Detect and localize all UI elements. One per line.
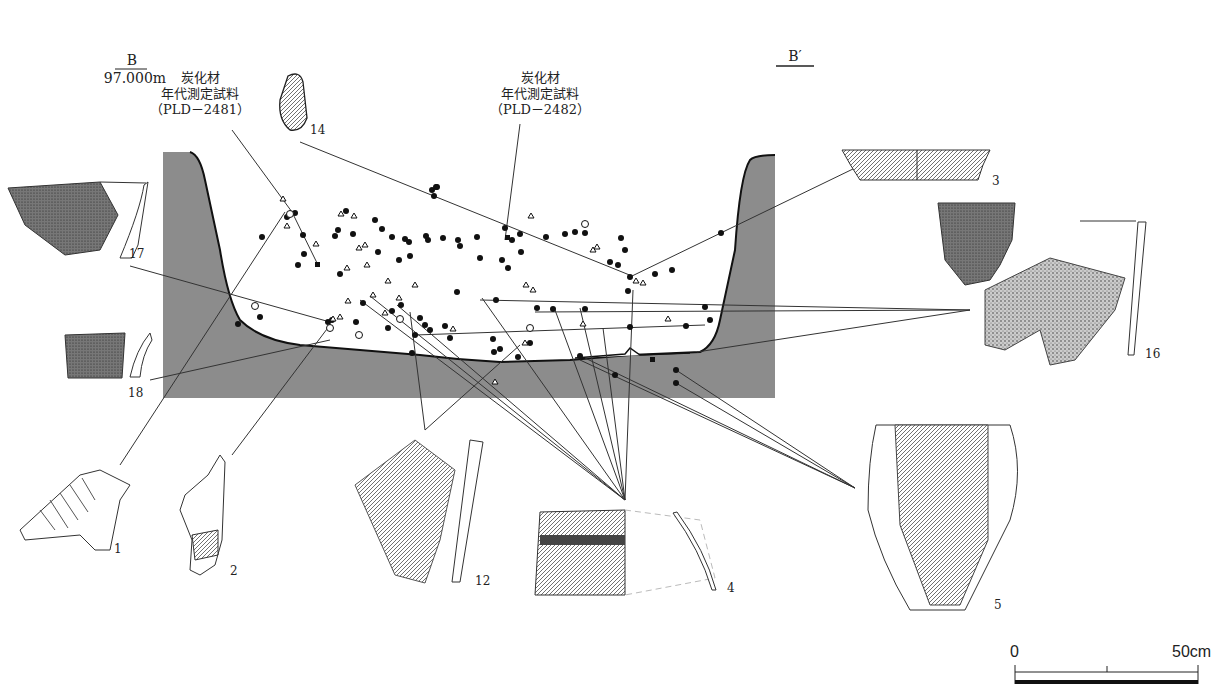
artifact-4-drawing (535, 510, 716, 595)
artifact-14-drawing (280, 74, 307, 130)
section-left-label: B (112, 52, 152, 68)
artifact-2-drawing (180, 455, 225, 575)
sample-label-pld-2481: 炭化材 年代測定試料 （PLD－2481） (130, 70, 270, 118)
artifact-17-drawing (8, 182, 148, 258)
sample-label-pld-2482: 炭化材 年代測定試料 （PLD－2482） (470, 70, 610, 118)
artifact-16-drawing (938, 203, 1146, 365)
scale-bar (1015, 665, 1198, 684)
artifact-label-18: 18 (128, 386, 143, 400)
scale-start-label: 0 (1010, 643, 1019, 661)
artifact-label-16: 16 (1145, 347, 1160, 361)
artifact-3-drawing (842, 150, 990, 180)
artifact-12-drawing (355, 440, 483, 583)
artifact-label-5: 5 (994, 598, 1002, 612)
artifact-label-4: 4 (727, 581, 735, 595)
artifact-label-17: 17 (129, 247, 144, 261)
artifact-18-drawing (65, 333, 152, 378)
artifact-label-1: 1 (114, 542, 122, 556)
artifact-1-drawing (20, 470, 130, 550)
artifact-label-12: 12 (475, 574, 490, 588)
pit-section (163, 152, 775, 398)
scale-end-label: 50cm (1172, 643, 1211, 661)
section-right-label: B′ (775, 48, 815, 64)
leader-lines (120, 124, 970, 500)
artifact-label-2: 2 (230, 564, 238, 578)
artifact-label-3: 3 (992, 174, 1000, 188)
artifact-label-14: 14 (310, 123, 325, 137)
artifact-5-drawing (868, 425, 1018, 610)
